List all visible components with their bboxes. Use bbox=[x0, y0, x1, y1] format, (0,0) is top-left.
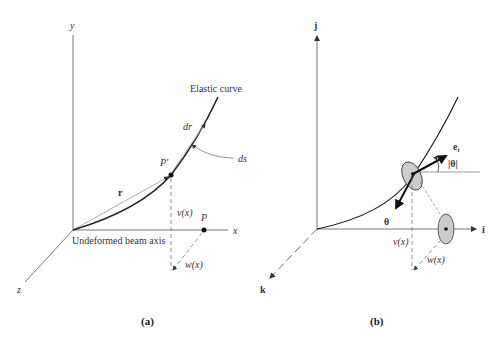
j-axis-label: j bbox=[313, 20, 317, 31]
v-label: v(x) bbox=[393, 236, 409, 248]
section-link-line bbox=[420, 182, 445, 222]
k-axis-label: k bbox=[260, 284, 266, 295]
z-axis-label: z bbox=[16, 284, 21, 295]
figure-canvas: y x z r dr ds Elastic curve P' v(x) P w(… bbox=[0, 0, 500, 340]
w-label: w(x) bbox=[427, 254, 445, 266]
beam-axis-label: Undeformed beam axis bbox=[72, 235, 165, 246]
z-axis bbox=[25, 230, 73, 282]
p-prime-label: P' bbox=[159, 157, 169, 168]
theta-magnitude-label: |θ| bbox=[448, 158, 458, 169]
panel-a: y x z r dr ds Elastic curve P' v(x) P w(… bbox=[16, 20, 247, 328]
ds-pointer bbox=[192, 145, 233, 158]
v-label: v(x) bbox=[177, 207, 193, 219]
w-label: w(x) bbox=[185, 259, 203, 271]
p-label: P bbox=[200, 212, 207, 223]
cross-section-center-p bbox=[444, 227, 448, 231]
r-label: r bbox=[118, 187, 123, 198]
elastic-curve bbox=[73, 97, 218, 230]
theta-label: θ bbox=[384, 216, 389, 227]
panel-b: j i k et |θ| θ v(x) w(x) (b) bbox=[260, 20, 485, 328]
et-vector bbox=[413, 156, 446, 174]
p-point bbox=[202, 228, 207, 233]
et-label: et bbox=[453, 141, 460, 154]
panel-b-caption: (b) bbox=[370, 315, 384, 328]
dr-label: dr bbox=[183, 121, 192, 132]
y-axis-label: y bbox=[69, 20, 75, 31]
panel-a-caption: (a) bbox=[141, 315, 154, 328]
i-axis-label: i bbox=[482, 224, 485, 235]
p-prime-point bbox=[169, 173, 174, 178]
k-axis bbox=[270, 229, 317, 278]
x-axis-label: x bbox=[232, 225, 238, 236]
ds-label: ds bbox=[238, 153, 247, 164]
elastic-curve-label: Elastic curve bbox=[190, 83, 242, 94]
r-vector bbox=[73, 177, 168, 230]
